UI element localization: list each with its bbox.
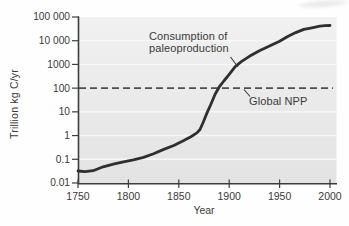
x-tick-label: 1750 <box>66 190 90 202</box>
x-tick-label: 1800 <box>117 190 141 202</box>
x-tick-label: 1950 <box>268 190 292 202</box>
y-tick-label: 0.01 <box>50 177 70 188</box>
curve-annotation-line2: paleoproduction <box>149 43 229 55</box>
x-tick-label: 1900 <box>218 190 242 202</box>
y-tick-label: 0.1 <box>56 154 70 165</box>
y-tick-label: 10 000 <box>39 35 70 46</box>
global-npp-label: Global NPP <box>249 96 307 108</box>
y-tick-label: 100 <box>53 83 70 94</box>
x-tick-label: 1850 <box>167 190 191 202</box>
x-tick-label: 2000 <box>318 190 342 202</box>
y-tick-label: 10 <box>59 106 71 117</box>
y-tick-label: 1 <box>64 130 70 141</box>
y-tick-label: 1000 <box>47 59 70 70</box>
x-axis-title: Year <box>193 205 214 217</box>
curve-annotation: Consumption of paleoproduction <box>149 31 229 54</box>
y-axis-title: Trillion kg C/yr <box>9 69 21 139</box>
fossil-fuel-consumption-chart: 100 00010 00010001001010.10.011750180018… <box>0 0 349 226</box>
curve-annotation-line1: Consumption of <box>149 31 229 43</box>
y-tick-label: 100 000 <box>33 11 70 22</box>
